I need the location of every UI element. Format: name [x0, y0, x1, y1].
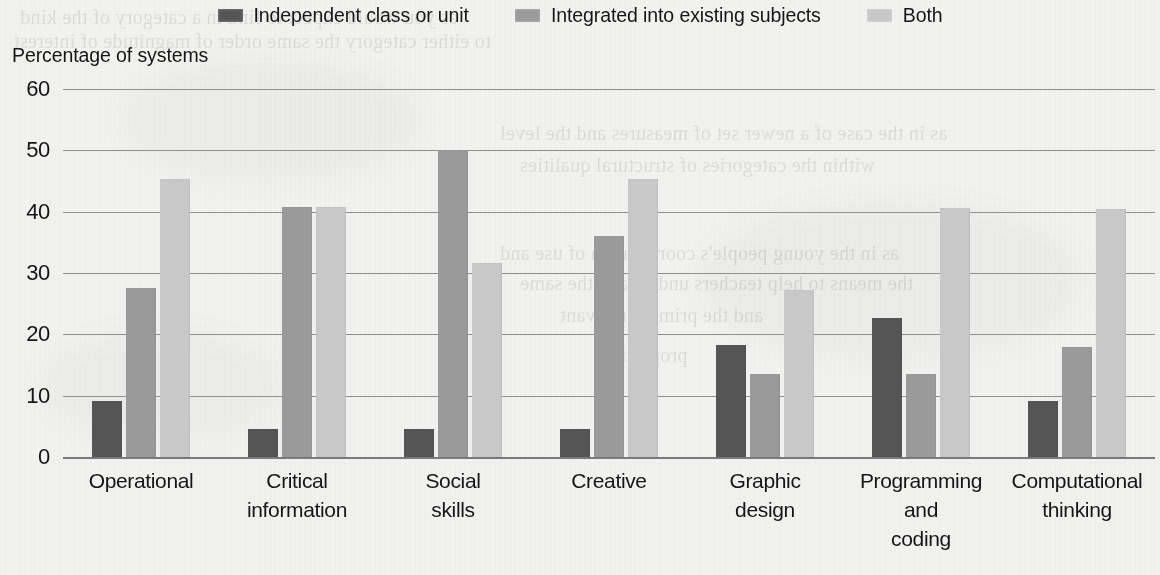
gridline-0	[63, 457, 1155, 459]
bar-group	[375, 89, 531, 457]
legend-swatch-both	[867, 9, 892, 22]
chart-legend: Independent class or unit Integrated int…	[0, 4, 1160, 27]
x-axis-category-label: Criticalinformation	[211, 466, 383, 524]
bar	[248, 429, 278, 457]
x-axis-category-labels: OperationalCriticalinformationSocialskil…	[63, 466, 1155, 574]
bar	[750, 374, 780, 457]
bar	[716, 345, 746, 457]
bar	[160, 179, 190, 457]
bar	[1028, 401, 1058, 457]
bar	[126, 288, 156, 457]
x-axis-category-label: Operational	[55, 466, 227, 495]
legend-item-both: Both	[867, 4, 943, 27]
bar-group	[687, 89, 843, 457]
y-tick-label-60: 60	[0, 76, 50, 102]
bar	[1096, 209, 1126, 457]
bar	[1062, 347, 1092, 457]
y-tick-label-40: 40	[0, 199, 50, 225]
legend-swatch-integrated	[515, 9, 540, 22]
bar	[594, 236, 624, 457]
legend-item-independent: Independent class or unit	[218, 4, 469, 27]
x-axis-category-label: Creative	[523, 466, 695, 495]
bar	[940, 208, 970, 457]
y-tick-label-10: 10	[0, 383, 50, 409]
bar-group	[531, 89, 687, 457]
x-axis-category-label: Computationalthinking	[991, 466, 1160, 524]
bar	[316, 207, 346, 457]
x-axis-category-label: Graphicdesign	[679, 466, 851, 524]
y-tick-label-50: 50	[0, 137, 50, 163]
bar-group	[999, 89, 1155, 457]
legend-label-independent: Independent class or unit	[254, 4, 469, 27]
x-axis-category-label: Programmingandcoding	[835, 466, 1007, 553]
legend-label-integrated: Integrated into existing subjects	[551, 4, 821, 27]
bar-group	[63, 89, 219, 457]
bar	[472, 263, 502, 457]
y-tick-label-20: 20	[0, 321, 50, 347]
bar	[92, 401, 122, 457]
bar	[438, 150, 468, 457]
bar-group	[219, 89, 375, 457]
bar-group	[843, 89, 999, 457]
x-axis-category-label: Socialskills	[367, 466, 539, 524]
bar	[560, 429, 590, 457]
bar	[404, 429, 434, 457]
bar	[628, 179, 658, 457]
bar	[906, 374, 936, 457]
bar	[872, 318, 902, 457]
bar-groups	[63, 89, 1155, 457]
bar	[282, 207, 312, 457]
bar	[784, 290, 814, 457]
chart-page: as you would expect to find in a categor…	[0, 0, 1160, 575]
y-tick-label-0: 0	[0, 444, 50, 470]
y-axis-title: Percentage of systems	[12, 44, 208, 67]
legend-swatch-independent	[218, 9, 243, 22]
y-tick-label-30: 30	[0, 260, 50, 286]
legend-label-both: Both	[903, 4, 943, 27]
legend-item-integrated: Integrated into existing subjects	[515, 4, 821, 27]
